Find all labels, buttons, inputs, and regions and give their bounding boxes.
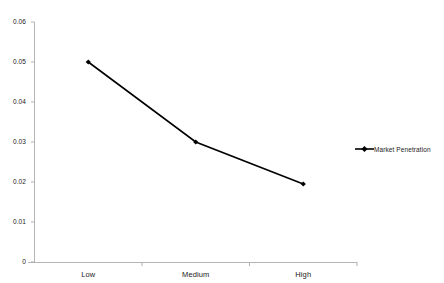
y-axis-ticks xyxy=(31,22,35,262)
y-axis-tick-label: 0.01 xyxy=(0,218,26,225)
y-axis-tick-label: 0.03 xyxy=(0,138,26,145)
line-chart: 00.010.020.030.040.050.06 LowMediumHigh … xyxy=(0,0,444,283)
y-axis-tick-label: 0.06 xyxy=(0,18,26,25)
x-axis-tick-label: Medium xyxy=(156,270,236,279)
series-market-penetration xyxy=(86,59,306,186)
data-point-marker xyxy=(301,181,306,186)
legend-line-diamond-icon xyxy=(355,144,374,154)
y-axis-tick-label: 0.02 xyxy=(0,178,26,185)
plot-area xyxy=(0,0,444,283)
legend: Market Penetration xyxy=(355,144,431,154)
x-axis-tick-label: High xyxy=(263,270,343,279)
y-axis-tick-label: 0.04 xyxy=(0,98,26,105)
series-line xyxy=(88,62,303,184)
y-axis-tick-label: 0 xyxy=(0,258,26,265)
y-axis-tick-label: 0.05 xyxy=(0,58,26,65)
x-axis-tick-label: Low xyxy=(48,270,128,279)
legend-entry-label: Market Penetration xyxy=(374,146,431,153)
